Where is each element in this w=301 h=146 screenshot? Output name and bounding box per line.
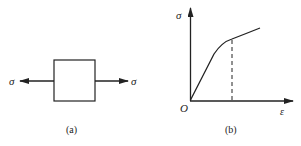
- x-axis-label: ε: [280, 106, 284, 117]
- y-axis-label: σ: [176, 9, 182, 21]
- right-sigma-label: σ: [131, 75, 137, 87]
- caption-b: (b): [225, 124, 237, 136]
- diagram-canvas: σ σ (a) σ ε O (b): [0, 0, 301, 146]
- caption-a: (a): [66, 124, 77, 136]
- figure-a: σ σ (a): [9, 60, 137, 136]
- left-sigma-label: σ: [9, 75, 15, 87]
- figure-b: σ ε O (b): [176, 8, 293, 136]
- stress-strain-curve: [191, 28, 261, 100]
- stress-element-square: [54, 60, 95, 101]
- origin-label: O: [180, 102, 188, 114]
